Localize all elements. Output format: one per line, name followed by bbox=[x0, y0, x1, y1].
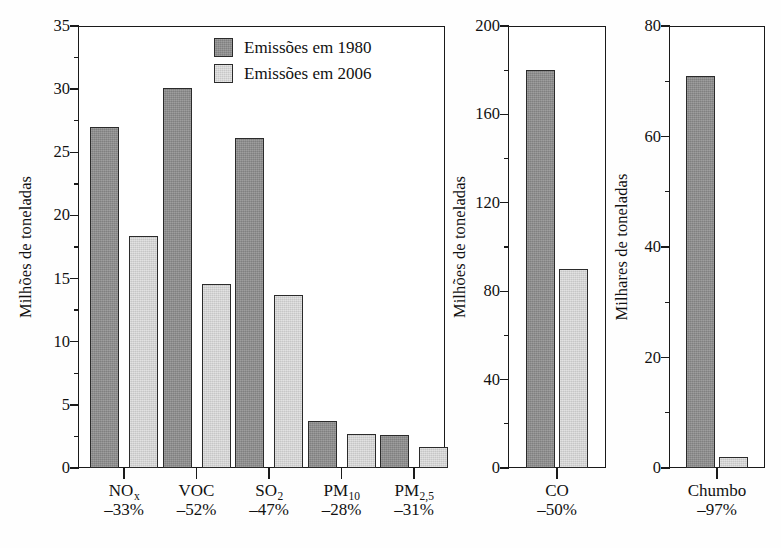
y-tick-minor bbox=[504, 70, 509, 71]
x-category-label: VOC–52% bbox=[177, 482, 217, 520]
y-tick-major bbox=[661, 467, 670, 468]
x-category-subscript: x bbox=[134, 490, 140, 502]
y-tick-label: 20 bbox=[601, 349, 661, 366]
y-tick-label: 0 bbox=[440, 460, 500, 477]
x-category-name: Chumbo bbox=[688, 482, 747, 500]
y-tick-label: 0 bbox=[10, 460, 70, 477]
x-category-subscript: 2,5 bbox=[420, 490, 434, 502]
y-tick-major bbox=[70, 341, 79, 342]
bar-pm10-2006 bbox=[347, 434, 376, 468]
bar-nox-2006 bbox=[129, 236, 158, 468]
x-category-name: PM2,5 bbox=[394, 482, 434, 500]
y-tick-major bbox=[70, 152, 79, 153]
y-tick-minor bbox=[504, 158, 509, 159]
y-tick-minor bbox=[665, 302, 670, 303]
x-tick bbox=[268, 468, 269, 479]
y-tick-major bbox=[500, 467, 509, 468]
x-category-change: –31% bbox=[394, 501, 434, 519]
y-tick-major bbox=[70, 404, 79, 405]
y-tick-major bbox=[661, 136, 670, 137]
bar-so2-1980 bbox=[235, 138, 264, 468]
y-tick-label: 80 bbox=[601, 18, 661, 35]
y-tick-label: 35 bbox=[10, 18, 70, 35]
y-tick-label: 30 bbox=[10, 81, 70, 98]
x-tick bbox=[196, 468, 197, 479]
y-tick-major bbox=[70, 278, 79, 279]
y-tick-label: 160 bbox=[440, 106, 500, 123]
y-tick-major bbox=[500, 202, 509, 203]
y-tick-label: 15 bbox=[10, 270, 70, 287]
x-category-name: SO2 bbox=[249, 482, 289, 500]
y-tick-major bbox=[661, 357, 670, 358]
legend-entry: Emissões em 1980 bbox=[214, 36, 372, 59]
x-category-label: CO–50% bbox=[537, 482, 577, 520]
y-tick-minor bbox=[504, 335, 509, 336]
x-category-change: –52% bbox=[177, 501, 217, 519]
bar-pm25-1980 bbox=[380, 435, 409, 468]
y-tick-minor bbox=[74, 57, 79, 58]
y-tick-label: 120 bbox=[440, 195, 500, 212]
y-tick-label: 25 bbox=[10, 144, 70, 161]
x-category-change: –97% bbox=[688, 501, 747, 519]
x-category-label: PM2,5–31% bbox=[394, 482, 434, 520]
y-tick-minor bbox=[74, 373, 79, 374]
y-tick-major bbox=[500, 291, 509, 292]
y-tick-major bbox=[70, 467, 79, 468]
y-tick-minor bbox=[74, 246, 79, 247]
y-tick-minor bbox=[74, 309, 79, 310]
y-tick-minor bbox=[665, 191, 670, 192]
y-tick-major bbox=[500, 25, 509, 26]
x-category-name: NOx bbox=[104, 482, 144, 500]
emissions-figure: Milhões de toneladas05101520253035NOx–33… bbox=[0, 0, 781, 548]
y-tick-major bbox=[70, 215, 79, 216]
y-tick-label: 80 bbox=[440, 283, 500, 300]
y-tick-label: 40 bbox=[601, 239, 661, 256]
x-category-label: SO2–47% bbox=[249, 482, 289, 520]
x-category-subscript: 10 bbox=[349, 490, 361, 502]
y-tick-label: 60 bbox=[601, 128, 661, 145]
bar-chumbo-1980 bbox=[686, 76, 715, 468]
y-tick-major bbox=[661, 246, 670, 247]
x-category-change: –28% bbox=[322, 501, 362, 519]
legend-entry: Emissões em 2006 bbox=[214, 62, 372, 85]
plot-frame-middle bbox=[508, 26, 606, 468]
bar-voc-1980 bbox=[163, 88, 192, 468]
y-tick-minor bbox=[74, 183, 79, 184]
x-tick bbox=[341, 468, 342, 479]
y-tick-minor bbox=[504, 246, 509, 247]
plot-frame-right bbox=[669, 26, 765, 468]
x-category-change: –33% bbox=[104, 501, 144, 519]
x-category-change: –47% bbox=[249, 501, 289, 519]
x-category-label: Chumbo–97% bbox=[688, 482, 747, 520]
legend-label: Emissões em 2006 bbox=[244, 64, 372, 84]
legend-label: Emissões em 1980 bbox=[244, 38, 372, 58]
y-tick-major bbox=[661, 25, 670, 26]
x-category-change: –50% bbox=[537, 501, 577, 519]
x-category-name: VOC bbox=[177, 482, 217, 500]
x-tick bbox=[716, 468, 717, 479]
x-category-label: PM10–28% bbox=[322, 482, 362, 520]
x-category-subscript: 2 bbox=[277, 490, 283, 502]
y-tick-major bbox=[500, 114, 509, 115]
bar-co-2006 bbox=[559, 269, 588, 468]
bar-chumbo-2006 bbox=[719, 457, 748, 468]
bar-co-1980 bbox=[526, 70, 555, 468]
y-tick-label: 40 bbox=[440, 371, 500, 388]
y-tick-label: 10 bbox=[10, 333, 70, 350]
x-category-label: NOx–33% bbox=[104, 482, 144, 520]
x-tick bbox=[413, 468, 414, 479]
y-tick-major bbox=[70, 25, 79, 26]
x-tick bbox=[556, 468, 557, 479]
y-tick-minor bbox=[665, 412, 670, 413]
y-tick-major bbox=[500, 379, 509, 380]
legend: Emissões em 1980Emissões em 2006 bbox=[214, 36, 372, 88]
bar-voc-2006 bbox=[202, 284, 231, 468]
y-tick-label: 0 bbox=[601, 460, 661, 477]
legend-swatch-dark bbox=[214, 38, 233, 57]
y-tick-minor bbox=[74, 436, 79, 437]
y-tick-minor bbox=[74, 120, 79, 121]
y-tick-label: 200 bbox=[440, 18, 500, 35]
x-tick bbox=[123, 468, 124, 479]
y-tick-minor bbox=[665, 81, 670, 82]
y-tick-label: 5 bbox=[10, 397, 70, 414]
